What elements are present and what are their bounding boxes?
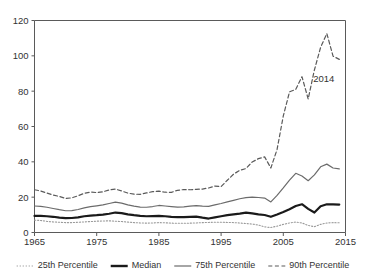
x-axis-tick-labels: 196519751985199520052015 [24,236,356,247]
chart-legend: 25th PercentileMedian75th Percentile90th… [17,260,350,270]
series-line-90th-percentile [35,34,340,199]
chart-series-group [35,34,340,228]
x-tick-label: 1975 [86,236,107,247]
chart-annotations: 2014 [313,73,334,84]
x-tick-label: 2005 [273,236,294,247]
y-axis-tick-labels: 020406080100120 [13,15,29,238]
series-line-25th-percentile [35,220,340,227]
y-tick-label: 40 [18,156,29,167]
y-tick-label: 20 [18,192,29,203]
annotation-label: 2014 [313,73,334,84]
chart-container: 020406080100120 196519751985199520052015… [0,0,366,280]
y-tick-label: 80 [18,86,29,97]
series-line-75th-percentile [35,164,340,211]
x-tick-label: 1985 [148,236,169,247]
x-tick-label: 1965 [24,236,45,247]
y-tick-label: 120 [13,15,29,26]
legend-label-75th-percentile[interactable]: 75th Percentile [195,260,255,270]
legend-label-25th-percentile[interactable]: 25th Percentile [38,260,98,270]
y-tick-label: 60 [18,121,29,132]
plot-frame [35,21,346,233]
legend-label-median[interactable]: Median [132,260,162,270]
axis-tick-marks [32,21,346,237]
line-chart: 020406080100120 196519751985199520052015… [0,0,366,280]
y-tick-label: 100 [13,50,29,61]
x-tick-label: 1995 [211,236,232,247]
x-tick-label: 2015 [335,236,356,247]
legend-label-90th-percentile[interactable]: 90th Percentile [289,260,349,270]
